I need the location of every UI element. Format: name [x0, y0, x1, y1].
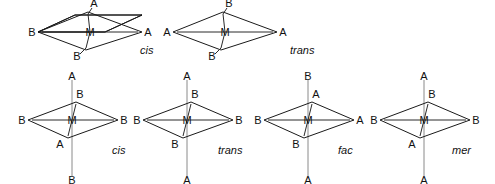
ligand-left-label: B	[18, 114, 25, 126]
ligand-top-label: A	[183, 70, 191, 82]
ligand-left-label: A	[163, 26, 171, 38]
ligand-front-label: B	[292, 138, 299, 150]
isomer-name-label: fac	[338, 144, 353, 156]
ligand-back-label: B	[191, 88, 198, 100]
isomer-name-label: cis	[112, 144, 126, 156]
ligand-right-label: B	[235, 114, 242, 126]
ligand-front-label: A	[408, 138, 416, 150]
ligand-front-label: B	[171, 138, 178, 150]
ligand-back-label: A	[312, 88, 320, 100]
ligand-left-label: B	[133, 114, 140, 126]
isomer-name-label: cis	[140, 44, 154, 56]
ligand-left-label: B	[370, 114, 377, 126]
ligand-bottom-label: A	[304, 174, 312, 184]
ligand-left-label: B	[254, 114, 261, 126]
metal-center-label: M	[67, 114, 76, 126]
ligand-front-label: B	[208, 50, 215, 62]
isomer-name-label: trans	[218, 144, 243, 156]
structure-square-planar-trans: M A A B B	[165, 0, 305, 60]
ligand-right-label: B	[472, 114, 479, 126]
metal-center-label: M	[85, 26, 94, 38]
ligand-front-label: A	[56, 138, 64, 150]
ligand-bottom-label: B	[68, 174, 75, 184]
ligand-bottom-label: A	[183, 174, 191, 184]
ligand-top-label: A	[68, 70, 76, 82]
structure-octahedral-fac: M B A B A A B	[246, 72, 371, 184]
ligand-back-label: B	[76, 88, 83, 100]
isomer-name-label: trans	[290, 44, 315, 56]
ligand-left-label: B	[28, 26, 35, 38]
ligand-top-label: A	[420, 70, 428, 82]
metal-center-label: M	[182, 114, 191, 126]
ligand-right-label: A	[279, 26, 287, 38]
ligand-top-label: B	[304, 70, 311, 82]
ligand-back-label: B	[428, 88, 435, 100]
ligand-right-label: A	[144, 26, 152, 38]
isomer-name-square-planar-trans-wrap: trans	[290, 40, 350, 60]
ligand-back-label: A	[90, 0, 98, 9]
isomer-diagram: M B A A B cis	[0, 0, 495, 184]
structure-octahedral-cis: M A B B B B A	[10, 72, 135, 184]
isomer-name-label: mer	[452, 144, 472, 156]
ligand-bottom-label: A	[420, 174, 428, 184]
metal-center-label: M	[419, 114, 428, 126]
isomer-name-octahedral-mer-wrap: mer	[452, 140, 495, 160]
ligand-back-label: B	[225, 0, 232, 9]
structure-octahedral-mer: M A A B B B A	[362, 72, 487, 184]
structure-octahedral-trans: M A A B B B B	[125, 72, 250, 184]
metal-center-label: M	[220, 26, 229, 38]
metal-center-label: M	[303, 114, 312, 126]
ligand-front-label: B	[73, 50, 80, 62]
